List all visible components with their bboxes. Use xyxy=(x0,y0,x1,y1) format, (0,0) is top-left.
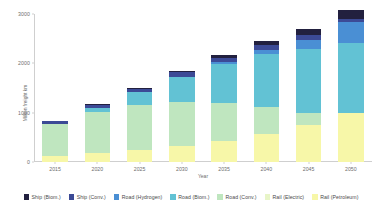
bar-segment xyxy=(42,124,67,156)
legend-label: Rail (Electric) xyxy=(273,194,305,200)
bar-segment xyxy=(338,22,363,43)
x-tick-mark xyxy=(181,162,182,164)
x-tick-label: 2020 xyxy=(92,166,104,172)
bar-segment xyxy=(127,92,152,105)
bar-segment xyxy=(254,134,279,162)
y-tick-label: 0 xyxy=(27,159,30,165)
y-tick-label: 2000 xyxy=(18,60,30,66)
bar-segment xyxy=(85,108,110,112)
bar-segment xyxy=(338,43,363,113)
legend-item[interactable]: Rail (Electric) xyxy=(265,194,305,200)
legend-label: Road (Conv.) xyxy=(225,194,256,200)
bar-segment xyxy=(254,50,279,54)
legend-swatch xyxy=(312,194,318,200)
bar-segment xyxy=(169,102,194,145)
chart-legend: Ship (Biom.)Ship (Conv.)Road (Hydrogen)R… xyxy=(0,194,382,200)
bar-stack xyxy=(296,29,321,162)
bar-segment xyxy=(296,125,321,162)
x-tick-mark xyxy=(97,162,98,164)
y-tick-label: 3000 xyxy=(18,11,30,17)
x-tick-label: 2050 xyxy=(345,166,357,172)
y-axis-title: Million freight km xyxy=(23,85,28,122)
bar-segment xyxy=(254,54,279,106)
bar-segment xyxy=(211,103,236,140)
bar-segment xyxy=(338,19,363,22)
legend-item[interactable]: Rail (Petroleum) xyxy=(312,194,358,200)
legend-label: Ship (Biom.) xyxy=(32,194,61,200)
legend-swatch xyxy=(114,194,120,200)
x-tick-mark xyxy=(139,162,140,164)
legend-item[interactable]: Road (Biom.) xyxy=(170,194,209,200)
bar-stack xyxy=(169,71,194,162)
x-tick-mark xyxy=(55,162,56,164)
legend-swatch xyxy=(170,194,176,200)
x-tick-mark xyxy=(308,162,309,164)
bar-segment xyxy=(211,62,236,63)
legend-label: Road (Hydrogen) xyxy=(122,194,163,200)
legend-swatch xyxy=(69,194,75,200)
bar-stack xyxy=(42,121,67,162)
bar-segment xyxy=(296,40,321,49)
legend-item[interactable]: Road (Conv.) xyxy=(217,194,256,200)
bar-segment xyxy=(169,146,194,162)
x-tick-label: 2045 xyxy=(303,166,315,172)
y-tick-mark xyxy=(32,162,34,163)
plot-area: 0100020003000 20152020202520302035204020… xyxy=(34,14,372,162)
x-tick-mark xyxy=(266,162,267,164)
bar-segment xyxy=(254,107,279,135)
bar-segment xyxy=(127,105,152,149)
bar-segment xyxy=(127,150,152,162)
bar-segment xyxy=(211,58,236,62)
bar-segment xyxy=(42,121,67,124)
bar-segment xyxy=(85,105,110,109)
y-tick-mark xyxy=(32,14,34,15)
legend-label: Ship (Conv.) xyxy=(77,194,106,200)
bar-segment xyxy=(169,71,194,73)
bar-segment xyxy=(296,49,321,113)
bar-stack xyxy=(254,41,279,162)
bar-segment xyxy=(338,113,363,162)
bar-stack xyxy=(338,10,363,162)
x-tick-mark xyxy=(350,162,351,164)
bar-segment xyxy=(127,89,152,93)
x-tick-label: 2040 xyxy=(261,166,273,172)
legend-item[interactable]: Road (Hydrogen) xyxy=(114,194,163,200)
bar-segment xyxy=(254,45,279,50)
x-axis-title: Year xyxy=(198,173,208,179)
legend-swatch xyxy=(265,194,271,200)
bar-segment xyxy=(211,141,236,162)
bar-segment xyxy=(169,72,194,76)
bar-stack xyxy=(211,55,236,162)
legend-item[interactable]: Ship (Biom.) xyxy=(24,194,61,200)
legend-label: Rail (Petroleum) xyxy=(320,194,358,200)
bar-segment xyxy=(169,77,194,103)
bar-segment xyxy=(211,64,236,103)
legend-label: Road (Biom.) xyxy=(178,194,209,200)
freight-stacked-bar-chart: 0100020003000 20152020202520302035204020… xyxy=(0,0,382,206)
x-tick-mark xyxy=(224,162,225,164)
bar-segment xyxy=(42,156,67,162)
bar-segment xyxy=(296,29,321,35)
bar-segment xyxy=(338,10,363,19)
bar-segment xyxy=(296,35,321,40)
x-tick-label: 2025 xyxy=(134,166,146,172)
legend-swatch xyxy=(24,194,30,200)
y-tick-mark xyxy=(32,112,34,113)
bar-segment xyxy=(85,153,110,162)
bar-segment xyxy=(85,112,110,153)
bar-segment xyxy=(296,113,321,124)
legend-item[interactable]: Ship (Conv.) xyxy=(69,194,106,200)
bar-segment xyxy=(211,55,236,58)
x-tick-label: 2035 xyxy=(218,166,230,172)
bar-stack xyxy=(85,104,110,162)
bar-segment xyxy=(254,41,279,45)
bar-segment xyxy=(127,88,152,89)
y-tick-mark xyxy=(32,63,34,64)
bar-stack xyxy=(127,88,152,162)
x-tick-label: 2030 xyxy=(176,166,188,172)
legend-swatch xyxy=(217,194,223,200)
x-tick-label: 2015 xyxy=(49,166,61,172)
